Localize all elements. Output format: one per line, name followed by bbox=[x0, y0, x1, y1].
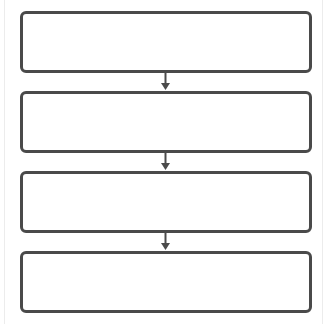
arrow-down-icon bbox=[161, 233, 170, 251]
left-frame-line bbox=[4, 0, 5, 324]
flow-step-3 bbox=[20, 171, 312, 233]
flow-step-3-label bbox=[23, 174, 309, 230]
diagram-title bbox=[40, 0, 290, 3]
flow-step-2 bbox=[20, 91, 312, 153]
flow-step-4-label bbox=[23, 254, 309, 310]
flow-step-2-label bbox=[23, 94, 309, 150]
arrow-down-icon bbox=[161, 73, 170, 91]
arrow-down-icon bbox=[161, 153, 170, 171]
flow-step-4 bbox=[20, 251, 312, 313]
flow-step-1 bbox=[20, 11, 312, 73]
right-frame-line bbox=[322, 0, 323, 324]
flow-step-1-label bbox=[23, 14, 309, 70]
